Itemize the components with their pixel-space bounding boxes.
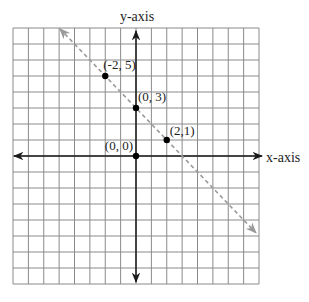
x-axis-label: x-axis bbox=[266, 150, 300, 165]
point-marker bbox=[102, 73, 108, 79]
point-marker bbox=[133, 105, 139, 111]
y-axis-label: y-axis bbox=[120, 9, 154, 24]
point-label: (2,1) bbox=[170, 123, 195, 138]
coordinate-plane: (-2, 5)(0, 3)(2,1)(0, 0) y-axis x-axis bbox=[0, 0, 309, 302]
coordinate-plane-figure: (-2, 5)(0, 3)(2,1)(0, 0) y-axis x-axis bbox=[0, 0, 309, 302]
dashed-line-y-equals-neg-x-plus-3 bbox=[60, 29, 256, 233]
point-marker bbox=[133, 153, 139, 159]
point-label: (0, 0) bbox=[105, 138, 133, 153]
point-label: (0, 3) bbox=[138, 89, 166, 104]
point-label: (-2, 5) bbox=[103, 57, 136, 72]
